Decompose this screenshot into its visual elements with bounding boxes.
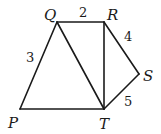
length-label-QR: 2 [79, 5, 87, 20]
vertex-label-R: R [106, 6, 118, 24]
geometry-diagram: Q R S P T 2 3 4 5 [0, 0, 161, 134]
length-label-ST: 5 [124, 94, 132, 109]
vertex-label-P: P [7, 114, 19, 132]
segment-QT [57, 22, 104, 109]
segment-ST [104, 74, 139, 109]
length-label-RS: 4 [124, 29, 132, 44]
length-label-PQ: 3 [26, 50, 34, 65]
vertex-label-Q: Q [44, 6, 56, 24]
segment-PQ [20, 22, 57, 109]
vertex-label-T: T [99, 115, 110, 133]
segment-RS [104, 22, 139, 74]
vertex-label-S: S [143, 67, 153, 85]
